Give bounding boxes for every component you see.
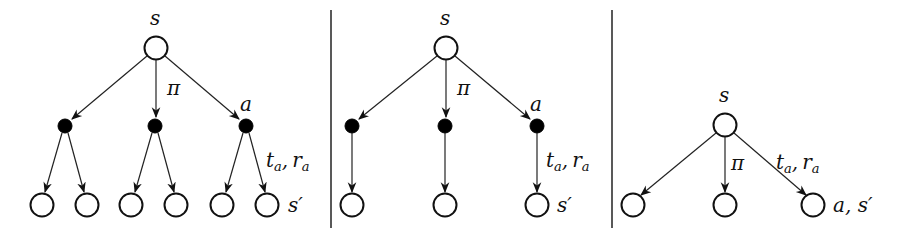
subscript-a: a xyxy=(784,161,792,176)
next-state-node xyxy=(341,194,364,217)
subscript-a: a xyxy=(582,159,590,174)
comma: , xyxy=(282,148,288,172)
next-state-node xyxy=(622,194,645,217)
transition-label: ta,ra xyxy=(776,150,820,176)
next-state-node xyxy=(120,194,143,217)
next-state-label: s′ xyxy=(288,193,303,217)
edge xyxy=(72,56,147,119)
edge xyxy=(226,133,243,192)
next-state-node xyxy=(434,194,457,217)
policy-label: π xyxy=(730,151,745,175)
policy-label: π xyxy=(456,76,471,100)
root-state-node xyxy=(714,114,737,137)
backup-diagram: s π a ta,ra s′ s π a xyxy=(0,0,897,239)
next-state-node xyxy=(714,194,737,217)
root-state-label: s xyxy=(719,83,729,107)
next-state-node xyxy=(76,194,99,217)
action-label: a xyxy=(530,92,542,116)
subscript-a: a xyxy=(554,159,562,174)
action-node xyxy=(148,119,162,133)
action-node xyxy=(239,119,253,133)
action-node xyxy=(345,119,359,133)
root-state-label: s xyxy=(150,6,160,30)
edge xyxy=(68,133,84,192)
root-state-node xyxy=(435,37,458,60)
action-node xyxy=(58,119,72,133)
root-state-node xyxy=(145,37,168,60)
panel-deterministic-backup: s π a ta,ra s′ xyxy=(341,6,590,217)
next-state-node xyxy=(256,194,279,217)
comma: , xyxy=(792,150,798,174)
next-state-node xyxy=(802,194,825,217)
panel-collapsed-backup: s π ta,ra a, s′ xyxy=(622,83,873,217)
edge xyxy=(641,133,716,195)
action-label: a xyxy=(240,92,252,116)
edge xyxy=(45,133,62,192)
root-state-label: s xyxy=(440,6,450,30)
next-state-node xyxy=(211,194,234,217)
next-state-label: s′ xyxy=(557,193,572,217)
edge xyxy=(135,133,152,192)
action-node xyxy=(438,119,452,133)
edge xyxy=(158,133,174,192)
transition-label: ta,ra xyxy=(266,148,310,174)
next-state-node xyxy=(31,194,54,217)
edge xyxy=(359,56,437,119)
comma: , xyxy=(562,148,568,172)
subscript-a: a xyxy=(302,159,310,174)
action-node xyxy=(530,119,544,133)
transition-label: ta,ra xyxy=(546,148,590,174)
policy-label: π xyxy=(166,76,181,100)
panel-full-backup: s π a ta,ra s′ xyxy=(31,6,310,217)
next-state-node xyxy=(526,194,549,217)
subscript-a: a xyxy=(812,161,820,176)
next-state-node xyxy=(165,194,188,217)
action-next-state-label: a, s′ xyxy=(833,193,873,217)
edge xyxy=(249,133,265,192)
subscript-a: a xyxy=(274,159,282,174)
